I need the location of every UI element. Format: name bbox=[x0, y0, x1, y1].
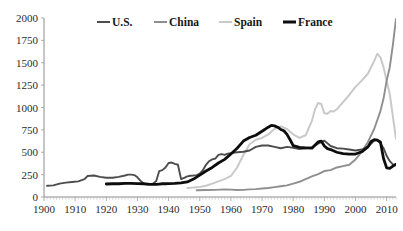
x-tick-label: 1950 bbox=[189, 203, 212, 215]
y-tick-label: 500 bbox=[22, 146, 39, 158]
x-tick-label: 1980 bbox=[282, 203, 305, 215]
legend-label-china: China bbox=[169, 16, 199, 28]
y-tick-label: 1500 bbox=[16, 57, 39, 69]
series-line-china bbox=[197, 19, 396, 190]
x-tick-label: 2010 bbox=[376, 203, 399, 215]
x-tick-label: 1930 bbox=[126, 203, 149, 215]
x-tick-label: 1910 bbox=[64, 203, 87, 215]
line-chart: 2000175015001250100075050025001900191019… bbox=[0, 0, 403, 231]
y-tick-label: 1250 bbox=[16, 79, 39, 91]
y-tick-label: 2000 bbox=[16, 12, 39, 24]
series-line-france bbox=[106, 125, 396, 184]
series-group bbox=[47, 19, 396, 190]
series-line-spain bbox=[187, 54, 396, 188]
y-tick-label: 1750 bbox=[16, 34, 39, 46]
x-tick-label: 1920 bbox=[95, 203, 118, 215]
chart-canvas: 2000175015001250100075050025001900191019… bbox=[0, 0, 403, 231]
x-tick-label: 2000 bbox=[345, 203, 368, 215]
legend-label-spain: Spain bbox=[234, 16, 263, 29]
x-tick-label: 1960 bbox=[220, 203, 243, 215]
chart-legend: U.S.ChinaSpainFrance bbox=[97, 16, 332, 29]
y-tick-label: 0 bbox=[33, 191, 39, 203]
legend-label-us: U.S. bbox=[112, 16, 133, 28]
x-tick-label: 1970 bbox=[251, 203, 274, 215]
x-tick-label: 1900 bbox=[33, 203, 56, 215]
y-tick-label: 750 bbox=[22, 124, 39, 136]
x-tick-label: 1990 bbox=[313, 203, 336, 215]
legend-label-france: France bbox=[298, 16, 332, 28]
y-tick-label: 1000 bbox=[16, 102, 39, 114]
x-tick-label: 1940 bbox=[158, 203, 181, 215]
y-tick-label: 250 bbox=[22, 169, 39, 181]
